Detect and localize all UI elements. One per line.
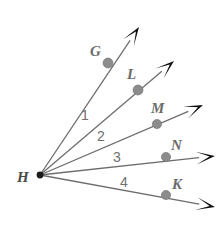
angle-2-label: 2 [97, 128, 105, 144]
point-dots-group [103, 58, 171, 200]
point-label-M: M [150, 100, 165, 116]
point-label-K: K [171, 176, 183, 192]
vertex-label-H: H [16, 169, 30, 185]
angle-diagram-canvas: H GLMNK 1234 [0, 0, 223, 231]
vertex-group: H [16, 169, 43, 185]
point-dot-G [103, 58, 113, 68]
angle-3-label: 3 [113, 149, 121, 165]
point-dot-M [152, 119, 161, 128]
point-label-G: G [90, 43, 101, 59]
point-dot-L [133, 85, 143, 95]
point-dot-K [161, 190, 170, 199]
ray-HL-line [40, 71, 162, 175]
angle-1-label: 1 [81, 107, 89, 123]
vertex-dot-H [37, 172, 44, 179]
point-label-N: N [170, 137, 183, 153]
ray-HM-line [40, 111, 188, 175]
point-label-L: L [126, 66, 136, 82]
geometry-figure: H GLMNK 1234 [0, 0, 223, 231]
point-dot-N [161, 152, 170, 161]
ray-HL-arrowhead-icon [155, 61, 174, 78]
angle-4-label: 4 [120, 174, 128, 190]
ray-HG-arrowhead-icon [123, 27, 139, 46]
